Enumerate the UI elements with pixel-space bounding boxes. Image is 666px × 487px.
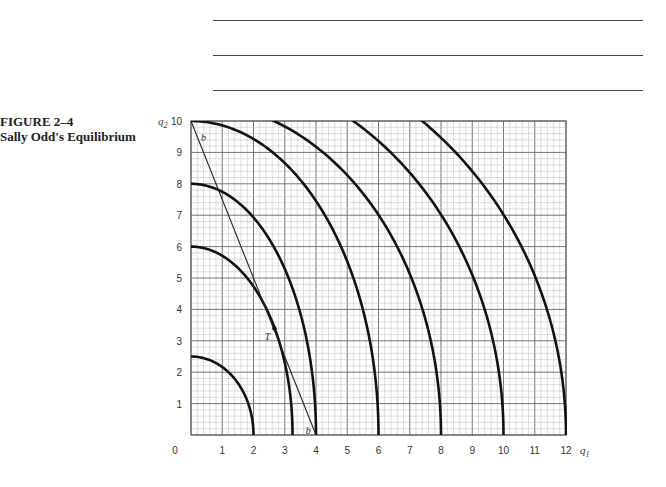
y-tick-label: 2 <box>176 367 182 378</box>
x-tick-label: 6 <box>376 445 382 456</box>
x-tick-label: 4 <box>313 445 319 456</box>
equilibrium-chart: 012345678910111212345678910q1q2bbT <box>0 0 666 487</box>
y-tick-label: 9 <box>176 147 182 158</box>
x-tick-label: 7 <box>407 445 413 456</box>
y-tick-label: 10 <box>171 116 183 127</box>
y-tick-label: 7 <box>176 210 182 221</box>
x-tick-label: 10 <box>498 445 510 456</box>
x-tick-label: 12 <box>560 445 572 456</box>
x-tick-label: 5 <box>344 445 350 456</box>
x-tick-label: 9 <box>469 445 475 456</box>
x-tick-label: 2 <box>251 445 257 456</box>
x-tick-label: 3 <box>282 445 288 456</box>
y-tick-label: 3 <box>176 336 182 347</box>
y-tick-label: 8 <box>176 179 182 190</box>
y-tick-label: 1 <box>176 399 182 410</box>
x-tick-label: 8 <box>438 445 444 456</box>
y-tick-label: 4 <box>176 304 182 315</box>
x-axis-label: q1 <box>580 444 590 459</box>
x-tick-label: 11 <box>530 445 541 456</box>
tangency-point <box>272 326 276 330</box>
x-tick-label: 1 <box>219 445 225 456</box>
annotation-label: b <box>201 132 206 143</box>
y-axis-label: q2 <box>158 115 168 130</box>
y-tick-label: 5 <box>176 273 182 284</box>
annotation-label: b <box>306 425 311 436</box>
x-tick-label: 0 <box>172 445 178 456</box>
y-tick-label: 6 <box>176 242 182 253</box>
